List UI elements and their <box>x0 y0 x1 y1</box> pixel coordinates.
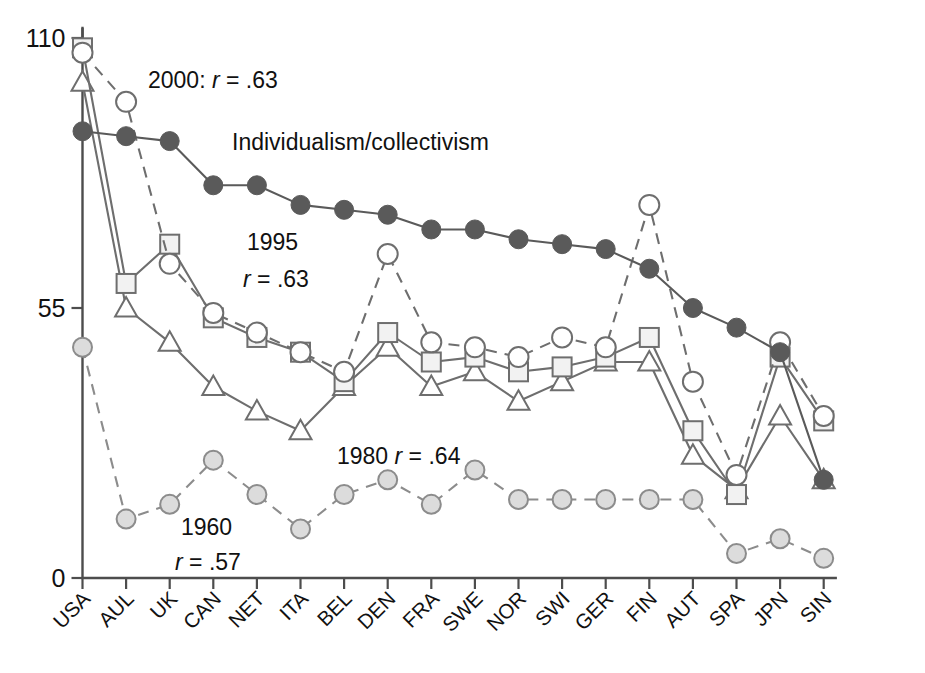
data-point-marker <box>247 485 266 504</box>
data-point-marker <box>73 43 93 63</box>
data-point-marker <box>814 470 833 489</box>
data-point-marker <box>422 495 441 514</box>
series-line <box>83 53 824 475</box>
x-tick-label-bel: BEL <box>312 587 356 631</box>
data-point-marker <box>640 490 659 509</box>
x-tick-label-fra: FRA <box>398 586 443 631</box>
y-tick-label: 0 <box>52 564 66 592</box>
data-point-marker <box>73 122 92 141</box>
data-point-marker <box>159 331 181 351</box>
x-tick-label-spa: SPA <box>704 586 748 630</box>
data-point-marker <box>378 470 397 489</box>
data-point-marker <box>465 220 484 239</box>
data-point-marker <box>814 549 833 568</box>
data-point-marker <box>509 347 529 367</box>
data-point-marker <box>204 451 223 470</box>
annot-1960-line1: 1960 <box>181 514 232 540</box>
line-chart: 110550 2000: r = .63Individualism/collec… <box>0 0 925 673</box>
data-point-marker <box>769 405 791 425</box>
data-point-marker <box>335 200 354 219</box>
data-point-marker <box>291 519 310 538</box>
data-point-marker <box>378 323 397 342</box>
data-point-marker <box>116 92 136 112</box>
data-point-marker <box>421 332 441 352</box>
data-point-marker <box>160 495 179 514</box>
data-point-marker <box>509 490 528 509</box>
x-tick-label-swi: SWI <box>530 587 574 631</box>
x-tick-label-can: CAN <box>178 587 225 634</box>
data-point-marker <box>640 328 659 347</box>
data-point-marker <box>117 274 136 293</box>
data-point-marker <box>422 353 441 372</box>
series-line <box>83 131 824 480</box>
data-point-marker <box>727 465 747 485</box>
data-point-marker <box>247 176 266 195</box>
data-point-marker <box>596 490 615 509</box>
series-layer <box>72 38 835 568</box>
data-point-marker <box>771 529 790 548</box>
chart-container: 110550 2000: r = .63Individualism/collec… <box>0 0 925 673</box>
data-point-marker <box>378 244 398 264</box>
y-tick-label: 55 <box>38 294 66 322</box>
data-point-marker <box>596 240 615 259</box>
x-tick-label-ita: ITA <box>275 586 313 624</box>
data-point-marker <box>117 127 136 146</box>
annot-1960-line2: r = .57 <box>175 549 241 575</box>
data-point-marker <box>335 485 354 504</box>
x-tick-label-jpn: JPN <box>748 587 792 631</box>
x-tick-label-sin: SIN <box>795 587 835 627</box>
data-point-marker <box>160 254 180 274</box>
annot-2000: 2000: r = .63 <box>148 67 278 93</box>
data-point-marker <box>115 297 137 317</box>
data-point-marker <box>291 195 310 214</box>
data-point-marker <box>553 490 572 509</box>
x-tick-label-ger: GER <box>570 587 618 635</box>
data-point-marker <box>509 230 528 249</box>
data-point-marker <box>771 343 790 362</box>
data-point-marker <box>204 176 223 195</box>
series-2000 <box>73 43 834 485</box>
x-tick-label-usa: USA <box>48 586 94 632</box>
x-tick-label-fin: FIN <box>622 587 662 627</box>
data-point-marker <box>465 337 485 357</box>
data-point-marker <box>639 195 659 215</box>
data-point-marker <box>117 510 136 529</box>
series-line <box>83 48 824 495</box>
data-point-marker <box>247 323 267 343</box>
data-point-marker <box>682 444 704 464</box>
x-tick-label-aul: AUL <box>93 587 137 631</box>
series-individualism-collectivism <box>73 122 833 490</box>
data-point-marker <box>640 259 659 278</box>
data-point-marker <box>378 205 397 224</box>
data-point-marker <box>160 235 179 254</box>
data-point-marker <box>683 299 702 318</box>
data-point-marker <box>246 400 268 420</box>
data-point-marker <box>727 318 746 337</box>
data-point-marker <box>727 544 746 563</box>
x-tick-label-nor: NOR <box>482 587 530 635</box>
data-point-marker <box>553 235 572 254</box>
data-point-marker <box>683 372 703 392</box>
data-point-marker <box>203 303 223 323</box>
annot-indiv: Individualism/collectivism <box>232 129 489 155</box>
series-1995 <box>73 38 833 504</box>
x-tick-label-swe: SWE <box>437 587 486 636</box>
data-point-marker <box>552 327 572 347</box>
data-point-marker <box>465 461 484 480</box>
data-point-marker <box>160 132 179 151</box>
data-point-marker <box>814 406 834 426</box>
data-point-marker <box>291 342 311 362</box>
data-point-marker <box>683 490 702 509</box>
x-tick-label-aut: AUT <box>659 586 705 632</box>
data-point-marker <box>422 220 441 239</box>
data-point-marker <box>73 338 92 357</box>
x-tick-label-net: NET <box>223 586 269 632</box>
annot-1995-line1: 1995 <box>247 229 298 255</box>
data-point-marker <box>334 362 354 382</box>
data-point-marker <box>727 485 746 504</box>
x-tick-label-uk: UK <box>145 586 182 623</box>
data-point-marker <box>553 357 572 376</box>
data-point-marker <box>596 337 616 357</box>
x-axis-labels: USAAULUKCANNETITABELDENFRASWENORSWIGERFI… <box>48 586 835 636</box>
data-point-marker <box>508 390 530 410</box>
